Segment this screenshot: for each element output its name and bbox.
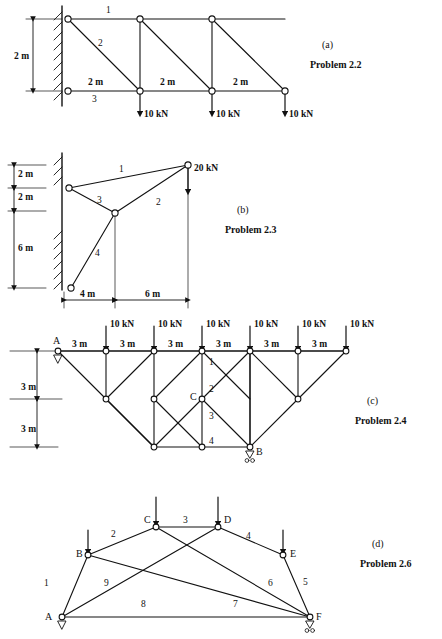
fig-c-member-1: 1 [209, 358, 214, 368]
fig-a-load-0: 10 kN [144, 110, 168, 120]
fig-d-node-b: B [76, 549, 83, 559]
fig-d-node-f: F [316, 612, 322, 622]
fig-a-load-2: 10 kN [289, 110, 313, 120]
fig-c-caption-tag: (c) [367, 396, 378, 406]
fig-c-dim-span-4: 3 m [264, 340, 279, 350]
fig-c-member-2: 2 [209, 385, 214, 395]
fig-c-dim-span-5: 3 m [312, 340, 327, 350]
fig-c-load-3: 10 kN [254, 320, 278, 330]
fig-d-node-e: E [290, 549, 296, 559]
fig-d-member-3: 3 [183, 516, 188, 526]
fig-c-dim-span-3: 3 m [216, 340, 231, 350]
fig-c-load-2: 10 kN [206, 320, 230, 330]
fig-b-member-1: 1 [119, 165, 124, 175]
fig-c-dim-vertical-1: 3 m [21, 425, 36, 435]
fig-d-node-d: D [224, 515, 231, 525]
fig-d-member-2: 2 [111, 530, 116, 540]
fig-a-load-1: 10 kN [216, 110, 240, 120]
fig-c-load-0: 10 kN [110, 320, 134, 330]
fig-a-dim-span-1: 2 m [160, 78, 175, 88]
fig-c-dim-span-1: 3 m [120, 340, 135, 350]
fig-d-member-6: 6 [268, 579, 273, 589]
figure-a-geometry [26, 6, 288, 114]
fig-b-dim-span-1: 6 m [145, 290, 160, 300]
fig-c-caption-title: Problem 2.4 [355, 416, 406, 426]
fig-b-dim-vertical-0: 2 m [18, 170, 33, 180]
fig-b-member-2: 2 [156, 198, 161, 208]
fig-b-member-4: 4 [95, 249, 100, 259]
fig-a-dim-span-2: 2 m [233, 78, 248, 88]
fig-c-load-5: 10 kN [350, 320, 374, 330]
fig-d-member-8: 8 [141, 600, 146, 610]
fig-b-caption-title: Problem 2.3 [225, 225, 276, 235]
fig-c-dim-span-0: 3 m [72, 340, 87, 350]
fig-d-member-9: 9 [104, 579, 109, 589]
fig-d-member-5: 5 [303, 578, 308, 588]
fig-a-caption-tag: (a) [322, 40, 333, 50]
fig-b-caption-tag: (b) [237, 205, 249, 215]
fig-d-member-1: 1 [44, 579, 49, 589]
fig-a-member-3: 3 [92, 95, 97, 105]
fig-b-load-0: 20 kN [194, 164, 218, 174]
fig-b-dim-span-0: 4 m [80, 290, 95, 300]
fig-d-member-4: 4 [246, 532, 251, 542]
fig-a-member-1: 1 [106, 6, 111, 16]
fig-d-caption-tag: (d) [372, 539, 384, 549]
fig-b-member-3: 3 [97, 196, 102, 206]
fig-d-caption-title: Problem 2.6 [360, 559, 411, 569]
fig-b-dim-vertical-1: 2 m [18, 193, 33, 203]
fig-a-member-2: 2 [98, 39, 103, 49]
fig-d-node-a: A [45, 612, 52, 622]
fig-c-node-c: C [190, 392, 197, 402]
figure-sheet: 2 m 2 m 2 m 2 m 1 2 3 10 kN 10 kN 10 kN … [0, 0, 442, 639]
fig-c-node-b: B [256, 447, 263, 457]
fig-d-member-7: 7 [233, 600, 238, 610]
fig-a-dim-span-0: 2 m [88, 78, 103, 88]
fig-b-dim-vertical-2: 6 m [18, 244, 33, 254]
fig-c-dim-vertical-0: 3 m [21, 383, 36, 393]
fig-c-load-1: 10 kN [158, 320, 182, 330]
figure-b-geometry [8, 153, 191, 308]
fig-d-node-c: C [144, 515, 151, 525]
fig-a-caption-title: Problem 2.2 [310, 60, 361, 70]
fig-c-load-4: 10 kN [302, 320, 326, 330]
fig-c-node-a: A [53, 336, 60, 346]
fig-a-dim-vertical-0: 2 m [14, 52, 29, 62]
fig-c-dim-span-2: 3 m [168, 340, 183, 350]
fig-c-member-3: 3 [209, 412, 214, 422]
fig-c-member-4: 4 [209, 437, 214, 447]
